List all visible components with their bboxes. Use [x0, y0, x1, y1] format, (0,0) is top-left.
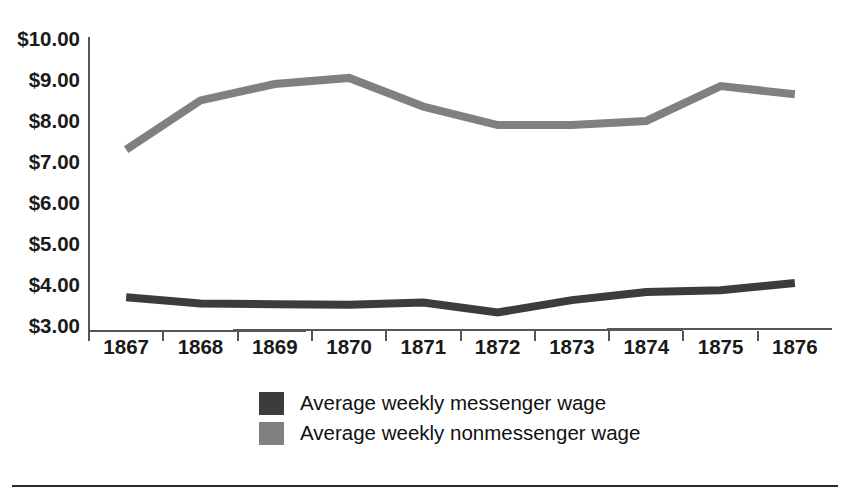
y-axis-tick-label: $5.00 — [29, 232, 80, 255]
legend-swatch-messenger-icon — [259, 392, 284, 415]
y-axis-tick-label: $3.00 — [29, 314, 80, 337]
figure-container: $10.00$9.00$8.00$7.00$6.00$5.00$4.00$3.0… — [0, 0, 849, 499]
chart-plot-area: $10.00$9.00$8.00$7.00$6.00$5.00$4.00$3.0… — [0, 0, 849, 370]
x-axis-tick-label: 1874 — [623, 335, 669, 358]
bottom-divider-rule — [12, 485, 838, 487]
chart-legend: Average weekly messenger wage Average we… — [0, 388, 849, 448]
x-axis-tick-label: 1875 — [698, 335, 744, 358]
y-axis-tick-label: $10.00 — [17, 27, 80, 50]
x-axis-tick-label: 1867 — [103, 335, 149, 358]
y-axis-tick-label: $7.00 — [29, 150, 80, 173]
line-chart: $10.00$9.00$8.00$7.00$6.00$5.00$4.00$3.0… — [0, 0, 849, 370]
series-line-nonmessenger — [126, 78, 795, 150]
x-axis-tick-label: 1871 — [401, 335, 447, 358]
x-axis-tick-label: 1872 — [475, 335, 521, 358]
legend-item-messenger: Average weekly messenger wage — [0, 388, 849, 418]
legend-item-nonmessenger: Average weekly nonmessenger wage — [0, 418, 849, 448]
x-axis-tick-label: 1876 — [772, 335, 818, 358]
y-axis-tick-label: $4.00 — [29, 273, 80, 296]
y-axis-tick-label: $6.00 — [29, 191, 80, 214]
x-axis-tick-label: 1873 — [549, 335, 595, 358]
legend-label-messenger: Average weekly messenger wage — [300, 393, 606, 414]
y-axis-tick-label: $8.00 — [29, 109, 80, 132]
x-axis-tick-label: 1869 — [252, 335, 298, 358]
legend-label-nonmessenger: Average weekly nonmessenger wage — [300, 423, 640, 444]
legend-swatch-nonmessenger-icon — [259, 422, 284, 445]
y-axis-tick-label: $9.00 — [29, 68, 80, 91]
x-axis-tick-label: 1870 — [326, 335, 372, 358]
data-series-group — [126, 78, 795, 313]
y-axis-tick-labels: $10.00$9.00$8.00$7.00$6.00$5.00$4.00$3.0… — [17, 27, 80, 337]
series-line-messenger — [126, 283, 795, 313]
x-axis-tick-label: 1868 — [178, 335, 224, 358]
x-axis-line — [89, 329, 832, 331]
